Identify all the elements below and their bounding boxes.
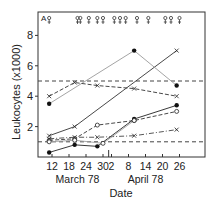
series-3-line bbox=[49, 83, 177, 97]
event-marker-icon bbox=[164, 16, 167, 24]
event-marker-icon bbox=[178, 16, 181, 24]
event-marker-head bbox=[101, 16, 104, 19]
event-marker-icon bbox=[118, 16, 121, 24]
plot-frame bbox=[38, 12, 205, 157]
x-tick-label: 2 bbox=[109, 160, 115, 172]
open-circle-marker bbox=[101, 141, 105, 145]
x-tick-label: 12 bbox=[46, 160, 58, 172]
event-markers bbox=[48, 16, 182, 24]
y-tick-label: 6 bbox=[27, 60, 33, 72]
x-marker-icon bbox=[73, 125, 77, 129]
event-marker-head bbox=[113, 16, 116, 19]
series-2-line bbox=[49, 51, 177, 104]
series-2 bbox=[47, 48, 179, 106]
event-marker-icon bbox=[87, 16, 90, 24]
event-marker-head bbox=[164, 16, 167, 19]
series-4 bbox=[47, 103, 179, 155]
y-tick-label: 8 bbox=[27, 29, 33, 41]
y-tick-label: 4 bbox=[27, 90, 33, 102]
data-series bbox=[47, 48, 179, 154]
filled-dot-marker bbox=[174, 83, 178, 87]
open-circle-marker bbox=[73, 138, 77, 142]
event-marker-icon bbox=[48, 16, 51, 24]
event-marker-head bbox=[87, 16, 90, 19]
x-tick-label: 24 bbox=[80, 160, 92, 172]
filled-dot-marker bbox=[47, 102, 51, 106]
event-marker-icon bbox=[101, 16, 104, 24]
filled-dot-marker bbox=[47, 150, 51, 154]
x-marker-icon bbox=[175, 128, 179, 132]
event-marker-icon bbox=[124, 16, 127, 24]
event-marker-icon bbox=[147, 16, 150, 24]
series-6-line bbox=[49, 130, 177, 139]
x-tick-label: 18 bbox=[63, 160, 75, 172]
plot-border bbox=[38, 12, 205, 157]
series-3 bbox=[47, 81, 179, 99]
x-tick-label: 14 bbox=[140, 160, 152, 172]
reference-lines bbox=[38, 81, 205, 142]
x-axis-label: Date bbox=[109, 187, 132, 199]
leukocyte-line-chart: 24681218243028142026March 78April 78 A L… bbox=[0, 0, 217, 203]
x-marker-icon bbox=[175, 49, 179, 53]
x-tick-label: 26 bbox=[174, 160, 186, 172]
event-marker-head bbox=[96, 16, 99, 19]
month-label: March 78 bbox=[56, 173, 100, 185]
event-marker-head bbox=[135, 16, 138, 19]
chart-canvas: 24681218243028142026March 78April 78 A L… bbox=[0, 0, 217, 203]
x-marker-icon bbox=[95, 135, 99, 139]
event-marker-head bbox=[48, 16, 51, 19]
filled-dot-marker bbox=[72, 143, 76, 147]
x-tick-label: 8 bbox=[126, 160, 132, 172]
event-marker-icon bbox=[169, 16, 172, 24]
month-label: April 78 bbox=[128, 173, 164, 185]
x-tick-label: 20 bbox=[157, 160, 169, 172]
event-marker-icon bbox=[96, 16, 99, 24]
x-tick-label: 30 bbox=[97, 160, 109, 172]
event-marker-icon bbox=[135, 16, 138, 24]
open-circle-marker bbox=[95, 123, 99, 127]
filled-dot-marker bbox=[132, 48, 136, 52]
x-marker-icon bbox=[175, 94, 179, 98]
event-marker-head bbox=[169, 16, 172, 19]
filled-dot-marker bbox=[174, 103, 178, 107]
event-marker-head bbox=[118, 16, 121, 19]
panel-label: A bbox=[41, 14, 47, 23]
open-circle-marker bbox=[175, 109, 179, 113]
event-marker-head bbox=[124, 16, 127, 19]
y-axis-label: Leukocytes (x1000) bbox=[10, 44, 22, 140]
axes: 24681218243028142026March 78April 78 bbox=[27, 29, 186, 185]
event-marker-head bbox=[147, 16, 150, 19]
event-marker-head bbox=[178, 16, 181, 19]
y-tick-label: 2 bbox=[27, 121, 33, 133]
open-circle-marker bbox=[47, 140, 51, 144]
filled-dot-marker bbox=[95, 144, 99, 148]
event-marker-icon bbox=[79, 16, 82, 24]
event-marker-icon bbox=[113, 16, 116, 24]
open-circle-marker bbox=[132, 119, 136, 123]
x-marker-icon bbox=[47, 94, 51, 98]
